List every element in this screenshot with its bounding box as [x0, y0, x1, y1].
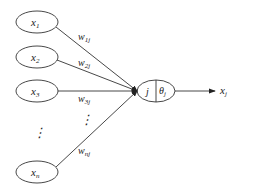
neuron-diagram: x1 x2 x3 xn ⋮ ⋮ w1j w2j w3j wnj j θj xj — [0, 0, 255, 192]
edge-2 — [57, 60, 137, 91]
edge-n — [56, 91, 137, 167]
output-label: xj — [219, 84, 227, 98]
weight-ellipsis: ⋮ — [80, 112, 93, 127]
input-node-2: x2 — [16, 46, 58, 68]
svg-text:x2: x2 — [30, 51, 40, 65]
svg-text:x1: x1 — [30, 16, 39, 30]
input-ellipsis: ⋮ — [33, 125, 46, 140]
input-node-3: x3 — [16, 80, 58, 102]
weight-label-2: w2j — [78, 57, 90, 70]
neuron-threshold-label: θj — [159, 85, 166, 98]
neuron-node: j θj — [137, 80, 175, 102]
weight-label-3: w3j — [78, 93, 90, 106]
neuron-index-label: j — [144, 86, 149, 97]
input-node-1: x1 — [16, 11, 58, 33]
weight-label-1: w1j — [78, 31, 90, 44]
input-node-n: xn — [16, 161, 58, 183]
svg-text:x3: x3 — [30, 85, 40, 99]
weight-label-n: wnj — [78, 145, 90, 158]
edge-1 — [56, 27, 137, 91]
svg-text:xn: xn — [30, 166, 40, 180]
